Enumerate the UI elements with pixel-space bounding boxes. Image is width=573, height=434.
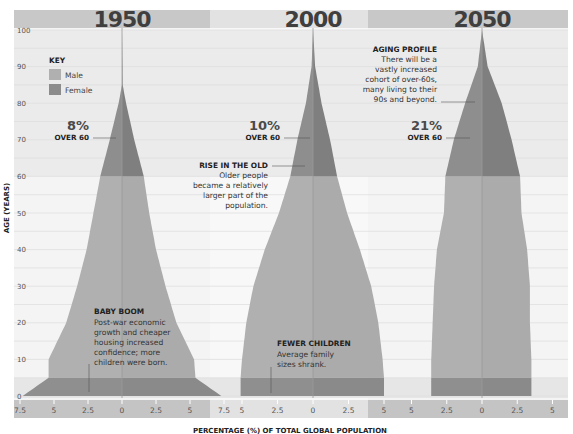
x-tick-label: 0 bbox=[480, 406, 485, 415]
female-under-5-area bbox=[313, 378, 384, 396]
x-tick-label: 5 bbox=[240, 406, 245, 415]
x-tick-label: 5 bbox=[382, 406, 387, 415]
x-tick-label: 2.5 bbox=[441, 406, 453, 415]
x-axis-label: PERCENTAGE (%) OF TOTAL GLOBAL POPULATIO… bbox=[193, 427, 387, 434]
over-60-pct-1950: 8% bbox=[67, 118, 89, 133]
over-60-label-1950: OVER 60 bbox=[55, 133, 89, 142]
legend-label-male: Male bbox=[65, 71, 83, 80]
x-axis-band-1950 bbox=[14, 400, 210, 418]
y-tick-label: 10 bbox=[17, 356, 26, 364]
over-60-pct-2050: 21% bbox=[411, 118, 442, 133]
annotation-line: larger part of the bbox=[203, 191, 268, 200]
population-pyramid-chart: 1950 2000 2050 1009080706050403020100 AG… bbox=[0, 0, 573, 434]
annotation-line: sizes shrank. bbox=[277, 360, 326, 369]
y-tick-label: 90 bbox=[17, 63, 26, 71]
y-axis-label: AGE (YEARS) bbox=[3, 183, 11, 233]
x-tick-label: 7.5 bbox=[218, 406, 230, 415]
over-60-pct-2000: 10% bbox=[249, 118, 280, 133]
x-tick-label: 2.5 bbox=[82, 406, 94, 415]
annotation-line: became a relatively bbox=[193, 181, 269, 190]
annotation-line: cohort of over-60s, bbox=[365, 75, 437, 84]
annotation-line: population. bbox=[225, 201, 268, 210]
x-tick-label: 5 bbox=[52, 406, 57, 415]
annotation-line: growth and cheaper bbox=[94, 328, 171, 337]
male-under-5-area bbox=[241, 378, 313, 396]
annotation-line: housing increased bbox=[94, 338, 163, 347]
annotation-title: RISE IN THE OLD bbox=[199, 161, 268, 170]
annotation-line: children were born. bbox=[94, 358, 168, 367]
x-tick-label: 2.5 bbox=[343, 406, 355, 415]
legend-swatch-male bbox=[49, 69, 61, 80]
x-axis-bands bbox=[14, 400, 568, 418]
annotation-title: FEWER CHILDREN bbox=[277, 339, 351, 348]
y-tick-label: 40 bbox=[17, 246, 26, 254]
annotation-line: vastly increased bbox=[375, 65, 437, 74]
y-tick-label: 50 bbox=[17, 210, 26, 218]
x-tick-label: 7.5 bbox=[14, 406, 26, 415]
annotation-title: BABY BOOM bbox=[94, 307, 144, 316]
annotation-line: Average family bbox=[277, 350, 335, 359]
legend-swatch-female bbox=[49, 84, 61, 95]
x-tick-label: 0 bbox=[311, 406, 316, 415]
annotation-line: 90s and beyond. bbox=[374, 95, 437, 104]
x-axis-band-2050 bbox=[368, 400, 568, 418]
legend-title: KEY bbox=[49, 56, 66, 65]
y-tick-label: 80 bbox=[17, 100, 26, 108]
y-tick-label: 20 bbox=[17, 319, 26, 327]
annotation-title: AGING PROFILE bbox=[373, 45, 437, 54]
x-tick-label: 0 bbox=[120, 406, 125, 415]
female-under-5-area bbox=[482, 378, 531, 396]
annotation-line: confidence; more bbox=[94, 348, 161, 357]
x-tick-label: 2.5 bbox=[150, 406, 162, 415]
x-tick-label: 2.5 bbox=[511, 406, 523, 415]
over-60-label-2050: OVER 60 bbox=[408, 133, 442, 142]
y-tick-label: 100 bbox=[17, 27, 30, 35]
x-tick-label: 5 bbox=[550, 406, 555, 415]
y-tick-label: 70 bbox=[17, 136, 26, 144]
legend-label-female: Female bbox=[65, 86, 93, 95]
x-tick-label: 2.5 bbox=[272, 406, 284, 415]
y-tick-label: 30 bbox=[17, 283, 26, 291]
year-header-bands: 1950 2000 2050 bbox=[14, 7, 568, 32]
male-under-5-area bbox=[431, 378, 482, 396]
y-tick-label: 0 bbox=[17, 393, 21, 401]
annotation-line: There will be a bbox=[380, 55, 437, 64]
over-60-label-2000: OVER 60 bbox=[246, 133, 280, 142]
annotation-line: Older people bbox=[219, 171, 268, 180]
x-tick-label: 5 bbox=[188, 406, 193, 415]
annotation-line: Post-war economic bbox=[94, 318, 166, 327]
annotation-line: many living to their bbox=[363, 85, 438, 94]
x-tick-label: 5 bbox=[409, 406, 414, 415]
y-tick-label: 60 bbox=[17, 173, 26, 181]
